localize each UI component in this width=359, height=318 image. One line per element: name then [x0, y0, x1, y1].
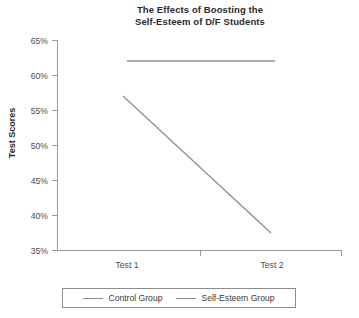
legend-item-control-group: Control Group	[83, 293, 162, 303]
chart-container: The Effects of Boosting the Self-Esteem …	[0, 0, 359, 318]
y-tick-label-45: 45%	[31, 176, 49, 186]
chart-legend: Control Group Self-Esteem Group	[62, 288, 296, 308]
legend-swatch-self-esteem-group	[176, 298, 196, 299]
y-tick-label-35: 35%	[31, 246, 49, 256]
y-tick-label-55: 55%	[31, 106, 49, 116]
legend-item-self-esteem-group: Self-Esteem Group	[176, 293, 274, 303]
x-tick-label-test-1: Test 1	[116, 260, 139, 270]
legend-label-control-group: Control Group	[108, 293, 162, 303]
series-line-control-group	[123, 96, 271, 233]
plot-area: 65% 60% 55% 50% 45% 40% 35% Test 1 Test …	[0, 0, 359, 318]
y-tick-label-60: 60%	[31, 71, 49, 81]
y-tick-label-65: 65%	[31, 36, 49, 46]
legend-swatch-control-group	[83, 298, 103, 299]
y-tick-label-40: 40%	[31, 211, 49, 221]
y-tick-label-50: 50%	[31, 141, 49, 151]
x-tick-label-test-2: Test 2	[261, 260, 284, 270]
legend-label-self-esteem-group: Self-Esteem Group	[201, 293, 274, 303]
